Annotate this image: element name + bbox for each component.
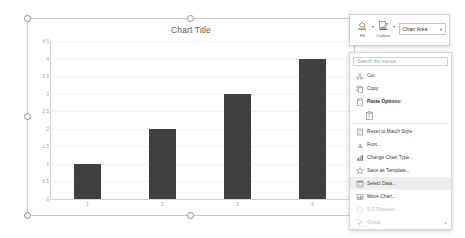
select-data-icon bbox=[354, 180, 365, 188]
chart-plot-wrapper: 4.543.532.521.510.50 1234 bbox=[28, 19, 354, 215]
y-axis-tick-label: 1 bbox=[46, 161, 49, 166]
menu-item-label: Select Data... bbox=[367, 181, 396, 186]
category-axis-line[interactable] bbox=[50, 199, 350, 200]
bar-2[interactable] bbox=[149, 129, 176, 199]
outline-button[interactable]: Outline bbox=[374, 17, 393, 38]
y-axis-tick-label: 4.5 bbox=[43, 39, 49, 44]
selection-handle-top-center[interactable] bbox=[187, 15, 194, 22]
rotation-3d-icon bbox=[354, 206, 365, 214]
y-axis-tick-label: 0 bbox=[46, 197, 49, 202]
x-axis-tick-label: 1 bbox=[50, 202, 125, 207]
submenu-arrow-icon: ▸ bbox=[445, 220, 447, 225]
y-axis-tick-label: 3.5 bbox=[43, 74, 49, 79]
paste-icon bbox=[354, 98, 365, 106]
menu-item-select-data[interactable]: Select Data... bbox=[350, 177, 451, 190]
context-menu-items: CutCopyPaste Options:Reset to Match Styl… bbox=[350, 69, 451, 229]
selection-handle-middle-left[interactable] bbox=[24, 113, 31, 120]
x-axis-tick-label: 3 bbox=[200, 202, 275, 207]
context-menu[interactable]: Search the menus CutCopyPaste Options:Re… bbox=[349, 52, 452, 230]
outline-caret-icon[interactable]: ▾ bbox=[393, 24, 395, 29]
menu-item-label: Group bbox=[367, 220, 381, 225]
copy-icon bbox=[354, 85, 365, 93]
fill-label: Fill bbox=[360, 33, 366, 38]
menu-item-label: Reset to Match Style bbox=[367, 129, 412, 134]
menu-item-label: Save as Template... bbox=[367, 168, 410, 173]
paste-keep-source-formatting-button[interactable] bbox=[365, 111, 374, 120]
outline-label: Outline bbox=[376, 33, 390, 38]
mini-floating-toolbar[interactable]: Fill ▾ Outline ▾ Chart Area ▾ bbox=[349, 14, 450, 46]
menu-item-label: Move Chart... bbox=[367, 194, 396, 199]
y-axis-tick-label: 2.5 bbox=[43, 109, 49, 114]
bar-slot bbox=[275, 41, 350, 199]
group-icon bbox=[354, 219, 365, 227]
y-axis-tick-label: 3 bbox=[46, 91, 49, 96]
y-axis-tick-label: 1.5 bbox=[43, 144, 49, 149]
y-axis-tick-label: 2 bbox=[46, 126, 49, 131]
menu-item-copy[interactable]: Copy bbox=[350, 82, 451, 95]
menu-item-group: Group▸ bbox=[350, 216, 451, 229]
save-template-icon bbox=[354, 167, 365, 175]
menu-item-change-chart-type[interactable]: Change Chart Type... bbox=[350, 151, 451, 164]
outline-pencil-icon bbox=[378, 19, 389, 32]
chevron-down-icon[interactable]: ▾ bbox=[440, 27, 442, 32]
x-axis-tick-label: 4 bbox=[275, 202, 350, 207]
menu-item-paste-options[interactable]: Paste Options: bbox=[350, 95, 451, 108]
search-input[interactable]: Search the menus bbox=[353, 57, 448, 66]
y-axis-tick-labels[interactable]: 4.543.532.521.510.50 bbox=[31, 41, 49, 199]
search-placeholder: Search the menus bbox=[357, 59, 396, 64]
menu-item-cut[interactable]: Cut bbox=[350, 69, 451, 82]
menu-separator bbox=[353, 123, 448, 124]
menu-item-label: 3-D Rotation... bbox=[367, 207, 399, 212]
chart-object[interactable]: Chart Title 4.543.532.521.510.50 1234 bbox=[27, 18, 355, 216]
fill-bucket-icon bbox=[357, 19, 368, 32]
chart-element-selector[interactable]: Chart Area ▾ bbox=[399, 23, 446, 35]
scissors-icon bbox=[354, 72, 365, 80]
menu-item-label: Copy bbox=[367, 86, 378, 91]
reset-style-icon bbox=[354, 128, 365, 136]
bar-1[interactable] bbox=[74, 164, 101, 199]
change-chart-type-icon bbox=[354, 154, 365, 162]
y-axis-tick-label: 4 bbox=[46, 56, 49, 61]
menu-item-3-d-rotation: 3-D Rotation... bbox=[350, 203, 451, 216]
svg-text:A: A bbox=[357, 141, 362, 148]
value-axis-line[interactable] bbox=[50, 41, 51, 199]
fill-button[interactable]: Fill bbox=[353, 17, 372, 38]
chart-element-selector-value: Chart Area bbox=[403, 26, 428, 32]
menu-item-font[interactable]: AFont... bbox=[350, 138, 451, 151]
selection-handle-bottom-center[interactable] bbox=[187, 212, 194, 219]
bar-slot bbox=[200, 41, 275, 199]
bar-3[interactable] bbox=[224, 94, 251, 199]
bar-slot bbox=[125, 41, 200, 199]
y-axis-tick-label: 0.5 bbox=[43, 179, 49, 184]
menu-item-reset-to-match-style[interactable]: Reset to Match Style bbox=[350, 125, 451, 138]
menu-item-save-as-template[interactable]: Save as Template... bbox=[350, 164, 451, 177]
selection-handle-bottom-left[interactable] bbox=[24, 212, 31, 219]
menu-item-label: Change Chart Type... bbox=[367, 155, 413, 160]
menu-item-label: Paste Options: bbox=[367, 99, 402, 104]
menu-item-move-chart[interactable]: Move Chart... bbox=[350, 190, 451, 203]
plot-area[interactable] bbox=[50, 41, 350, 199]
font-a-icon: A bbox=[354, 141, 365, 149]
paste-options-gallery bbox=[350, 108, 451, 122]
bar-slot bbox=[50, 41, 125, 199]
x-axis-tick-labels[interactable]: 1234 bbox=[50, 202, 350, 207]
x-axis-tick-label: 2 bbox=[125, 202, 200, 207]
selection-handle-top-left[interactable] bbox=[24, 15, 31, 22]
menu-item-label: Font... bbox=[367, 142, 381, 147]
bar-series[interactable] bbox=[50, 41, 350, 199]
menu-item-label: Cut bbox=[367, 73, 375, 78]
bar-4[interactable] bbox=[299, 59, 326, 199]
screenshot-root: Chart Title 4.543.532.521.510.50 1234 bbox=[0, 0, 465, 238]
move-chart-icon bbox=[354, 193, 365, 201]
